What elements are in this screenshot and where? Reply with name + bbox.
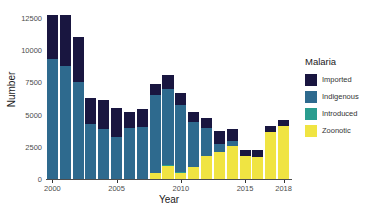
bar-segment-imported: [201, 118, 212, 128]
bar-segment-indigenous: [98, 129, 109, 179]
bar-segment-indigenous: [124, 128, 135, 180]
bar-segment-imported: [137, 109, 148, 127]
bar-segment-imported: [60, 15, 71, 66]
x-tick-mark: [245, 180, 246, 183]
bar-segment-zoonotic: [227, 146, 238, 179]
bar-2012: [201, 118, 212, 179]
bar-2013: [214, 131, 225, 179]
bar-segment-zoonotic: [175, 173, 186, 179]
bar-segment-imported: [73, 37, 84, 82]
bar-segment-indigenous: [47, 59, 58, 179]
bar-2001: [60, 15, 71, 179]
x-axis-title: Year: [46, 194, 292, 205]
bar-2000: [47, 15, 58, 179]
bar-2017: [265, 126, 276, 179]
bar-segment-zoonotic: [252, 157, 263, 179]
bar-segment-imported: [85, 98, 96, 124]
bar-segment-zoonotic: [201, 156, 212, 179]
bar-segment-indigenous: [111, 137, 122, 180]
bar-segment-zoonotic: [265, 132, 276, 179]
y-tick-label: 2500: [8, 142, 42, 151]
bar-segment-imported: [252, 150, 263, 157]
bar-segment-zoonotic: [240, 156, 251, 179]
bar-segment-zoonotic: [278, 126, 289, 179]
bar-2014: [227, 129, 238, 179]
y-tick-label: 7500: [8, 78, 42, 87]
bar-2009: [162, 75, 173, 179]
bar-2008: [150, 84, 161, 179]
x-tick-label: 2018: [275, 184, 292, 193]
bar-segment-zoonotic: [214, 152, 225, 179]
legend-title: Malaria: [305, 56, 381, 67]
legend-item-label: Introduced: [322, 109, 357, 118]
bar-segment-imported: [150, 84, 161, 96]
legend-item-indigenous[interactable]: Indigenous: [305, 89, 381, 104]
x-tick-label: 2000: [44, 184, 61, 193]
bar-segment-indigenous: [60, 66, 71, 179]
bar-segment-imported: [47, 15, 58, 59]
malaria-stacked-bar-chart: Number 02500500075001000012500 200020052…: [0, 0, 382, 213]
legend-item-label: Imported: [322, 75, 352, 84]
y-tick-label: 10000: [8, 46, 42, 55]
bar-segment-indigenous: [85, 124, 96, 179]
bar-segment-zoonotic: [150, 173, 161, 179]
legend-item-label: Indigenous: [322, 92, 359, 101]
legend-swatch-icon: [305, 74, 317, 86]
bar-segment-indigenous: [73, 82, 84, 179]
bar-2015: [240, 150, 251, 179]
bar-2004: [98, 100, 109, 179]
x-tick-label: 2010: [172, 184, 189, 193]
bar-segment-imported: [111, 108, 122, 137]
y-tick-label: 0: [8, 175, 42, 184]
bar-2006: [124, 112, 135, 179]
bar-2010: [175, 93, 186, 179]
bar-segment-zoonotic: [188, 167, 199, 179]
bar-segment-indigenous: [150, 95, 161, 173]
bar-segment-imported: [98, 100, 109, 128]
y-tick-label: 12500: [8, 14, 42, 23]
legend-item-zoonotic[interactable]: Zoonotic: [305, 123, 381, 138]
x-tick-mark: [52, 180, 53, 183]
bar-2011: [188, 112, 199, 179]
bar-2002: [73, 37, 84, 179]
legend-item-imported[interactable]: Imported: [305, 72, 381, 87]
bar-segment-imported: [175, 93, 186, 105]
bar-segment-indigenous: [175, 105, 186, 172]
bar-segment-indigenous: [188, 122, 199, 167]
bar-segment-indigenous: [214, 144, 225, 152]
legend-entries: ImportedIndigenousIntroducedZoonotic: [305, 72, 381, 138]
plot-area: [46, 9, 290, 179]
legend-item-introduced[interactable]: Introduced: [305, 106, 381, 121]
y-tick-label: 5000: [8, 110, 42, 119]
bar-segment-imported: [188, 112, 199, 122]
x-tick-mark: [284, 180, 285, 183]
bar-segment-indigenous: [162, 89, 173, 165]
bar-segment-indigenous: [201, 128, 212, 156]
bar-2003: [85, 98, 96, 179]
legend-swatch-icon: [305, 125, 317, 137]
bar-2016: [252, 150, 263, 179]
bar-segment-imported: [124, 112, 135, 127]
x-axis-line: [46, 179, 292, 180]
x-tick-label: 2015: [237, 184, 254, 193]
bar-2007: [137, 109, 148, 179]
x-tick-mark: [181, 180, 182, 183]
x-tick-label: 2005: [108, 184, 125, 193]
bar-segment-imported: [227, 129, 238, 141]
legend-swatch-icon: [305, 108, 317, 120]
legend-swatch-icon: [305, 91, 317, 103]
bar-segment-zoonotic: [162, 166, 173, 179]
bar-2018: [278, 120, 289, 179]
legend-item-label: Zoonotic: [322, 126, 351, 135]
x-tick-mark: [117, 180, 118, 183]
bar-segment-indigenous: [137, 127, 148, 179]
y-axis-tick-labels: 02500500075001000012500: [8, 0, 42, 213]
bar-2005: [111, 108, 122, 179]
bar-segment-imported: [162, 75, 173, 90]
bar-segment-imported: [214, 131, 225, 144]
legend: Malaria ImportedIndigenousIntroducedZoon…: [305, 56, 381, 140]
